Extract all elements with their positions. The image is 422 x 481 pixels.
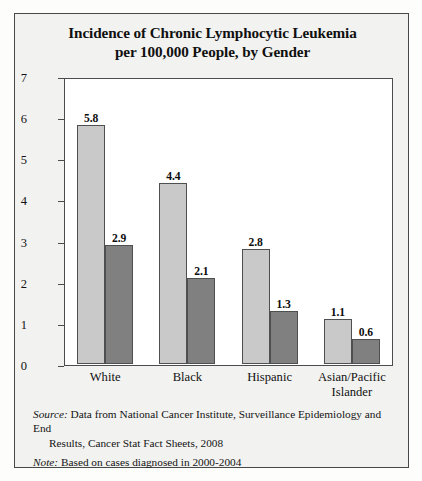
footnote-text: Based on cases diagnosed in 2000-2004 <box>58 456 241 468</box>
bar-men-white: 5.8 <box>77 125 105 364</box>
bar-value-label: 4.4 <box>166 170 181 183</box>
y-axis-tick-label: 0 <box>7 359 27 374</box>
bar-value-label: 5.8 <box>84 112 99 125</box>
figure-frame: Incidence of Chronic Lymphocytic Leukemi… <box>14 13 409 468</box>
footnote-label: Note: <box>33 456 58 468</box>
bar-value-label: 2.1 <box>194 265 209 278</box>
y-axis-tick-label: 1 <box>7 317 27 332</box>
bar-women-asian-pacific-islander: 0.6 <box>352 339 380 364</box>
y-axis-tick-label: 3 <box>7 235 27 250</box>
bar-men-hispanic: 2.8 <box>242 249 270 364</box>
y-axis-tick-label: 5 <box>7 153 27 168</box>
bar-value-label: 1.1 <box>331 306 346 319</box>
bar-women-hispanic: 1.3 <box>270 311 298 364</box>
footnote-label: Source: <box>33 408 68 420</box>
chart-title: Incidence of Chronic Lymphocytic Leukemi… <box>15 24 410 61</box>
x-axis-category-label: White <box>64 370 146 385</box>
bar-men-asian-pacific-islander: 1.1 <box>324 319 352 364</box>
bar-value-label: 2.8 <box>248 236 263 249</box>
x-axis-category-label-line: Islander <box>311 385 393 400</box>
chart-title-line-1: Incidence of Chronic Lymphocytic Leukemi… <box>15 24 410 43</box>
y-axis-tick-label: 2 <box>7 276 27 291</box>
footnote-note: Note: Based on cases diagnosed in 2000-2… <box>33 455 401 469</box>
figure-page: Incidence of Chronic Lymphocytic Leukemi… <box>0 0 422 481</box>
x-axis-category-label-line: Black <box>146 370 228 385</box>
y-axis-tick-label: 6 <box>7 112 27 127</box>
bar-men-black: 4.4 <box>159 183 187 364</box>
y-axis-tick-label: 4 <box>7 194 27 209</box>
y-axis-tick-label: 7 <box>7 71 27 86</box>
footnote-text-continued: Results, Cancer Stat Fact Sheets, 2008 <box>33 436 401 450</box>
bar-value-label: 2.9 <box>112 232 127 245</box>
footnote-text: Data from National Cancer Institute, Sur… <box>33 408 381 434</box>
y-axis-tick-mark <box>58 366 64 367</box>
x-axis-category-label: Asian/PacificIslander <box>311 370 393 399</box>
footnotes: Source: Data from National Cancer Instit… <box>33 407 401 475</box>
x-axis-category-label-line: Asian/Pacific <box>311 370 393 385</box>
x-axis-category-label: Black <box>146 370 228 385</box>
bar-value-label: 0.6 <box>359 326 374 339</box>
bar-value-label: 1.3 <box>276 298 291 311</box>
x-axis-category-label: Hispanic <box>229 370 311 385</box>
x-axis-category-label-line: White <box>64 370 146 385</box>
footnote-source: Source: Data from National Cancer Instit… <box>33 407 401 450</box>
x-axis-category-label-line: Hispanic <box>229 370 311 385</box>
bar-women-black: 2.1 <box>187 278 215 364</box>
bar-women-white: 2.9 <box>105 245 133 364</box>
chart-title-line-2: per 100,000 People, by Gender <box>15 43 410 62</box>
